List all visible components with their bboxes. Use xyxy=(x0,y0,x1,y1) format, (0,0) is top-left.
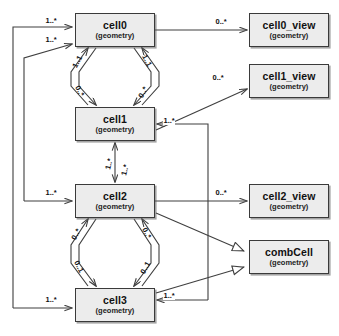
edge-label-outer-loop-into-cell3: 1..* xyxy=(45,296,57,304)
connector-cell2-to-combcell-generalization xyxy=(156,213,244,251)
uml-class-diagram: cell0 (geometry) cell1 (geometry) cell2 … xyxy=(0,0,339,336)
edge-label-outer-loop-cell0: 1..* xyxy=(45,17,57,25)
class-stereotype-cell1-view: (geometry) xyxy=(270,82,309,91)
class-node-cell0-view[interactable]: cell0_view (geometry) xyxy=(249,13,329,47)
diagram-connectors-layer xyxy=(0,0,339,336)
class-name-cell0-view: cell0_view xyxy=(263,20,316,31)
class-stereotype-cell0-view: (geometry) xyxy=(270,31,309,40)
connector-inner-left-loop-to-cell0 xyxy=(24,44,72,201)
class-node-cell1[interactable]: cell1 (geometry) xyxy=(75,107,155,141)
class-stereotype-cell3: (geometry) xyxy=(96,306,135,315)
class-node-cell1-view[interactable]: cell1_view (geometry) xyxy=(249,64,329,98)
class-node-cell2[interactable]: cell2 (geometry) xyxy=(75,184,155,218)
connector-right-loop-to-cell1 xyxy=(157,124,208,300)
class-name-combcell: combCell xyxy=(265,247,313,258)
edge-label-cell0-view: 0..* xyxy=(215,18,227,26)
edge-label-right-loop-into-cell1: 1..* xyxy=(163,117,175,125)
edge-label-cell1-view: 0..* xyxy=(212,74,224,82)
edge-label-inner-loop-into-cell2: 1..* xyxy=(45,189,57,197)
connector-outer-left-loop-to-cell0 xyxy=(13,27,72,308)
class-node-combcell[interactable]: combCell (geometry) xyxy=(249,240,329,274)
class-stereotype-cell1: (geometry) xyxy=(96,125,135,134)
edge-label-inner-loop-cell0: 1..* xyxy=(45,36,57,44)
class-name-cell0: cell0 xyxy=(103,20,127,31)
edge-label-right-loop-into-cell3: 1..* xyxy=(163,292,175,300)
class-stereotype-cell0: (geometry) xyxy=(96,31,135,40)
connector-cell3-to-combcell-generalization xyxy=(156,267,244,293)
class-node-cell3[interactable]: cell3 (geometry) xyxy=(75,288,155,322)
class-name-cell3: cell3 xyxy=(103,295,127,306)
class-stereotype-cell2: (geometry) xyxy=(96,202,135,211)
class-name-cell1: cell1 xyxy=(103,114,127,125)
class-node-cell2-view[interactable]: cell2_view (geometry) xyxy=(249,184,329,218)
class-node-cell0[interactable]: cell0 (geometry) xyxy=(75,13,155,47)
class-name-cell2-view: cell2_view xyxy=(263,191,316,202)
class-name-cell1-view: cell1_view xyxy=(263,71,316,82)
class-stereotype-cell2-view: (geometry) xyxy=(270,202,309,211)
class-name-cell2: cell2 xyxy=(103,191,127,202)
class-stereotype-combcell: (geometry) xyxy=(270,258,309,267)
edge-label-cell2-view: 0..* xyxy=(215,189,227,197)
